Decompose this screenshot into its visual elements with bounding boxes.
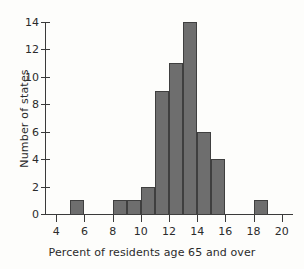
y-tick-label-2: 2 [19, 181, 39, 192]
x-tick-18 [254, 214, 255, 222]
y-tick-8 [41, 104, 50, 105]
x-tick-label-4: 4 [44, 226, 68, 237]
x-tick-label-6: 6 [72, 226, 96, 237]
histogram-bar [70, 200, 84, 215]
x-tick-16 [225, 214, 226, 222]
x-tick-label-18: 18 [242, 226, 266, 237]
y-tick-14 [41, 22, 50, 23]
y-tick-2 [41, 187, 50, 188]
histogram-bar [211, 159, 225, 215]
x-tick-20 [282, 214, 283, 222]
y-tick-label-0: 0 [19, 209, 39, 220]
x-tick-12 [169, 214, 170, 222]
y-tick-label-10: 10 [19, 71, 39, 82]
y-tick-0 [41, 214, 50, 215]
histogram-figure: Number of states 02468101214 46810121416… [0, 0, 304, 269]
y-tick-6 [41, 132, 50, 133]
x-tick-8 [113, 214, 114, 222]
x-tick-4 [56, 214, 57, 222]
y-tick-4 [41, 159, 50, 160]
y-tick-label-12: 12 [19, 44, 39, 55]
y-tick-label-6: 6 [19, 126, 39, 137]
x-tick-14 [197, 214, 198, 222]
histogram-bar [113, 200, 127, 215]
histogram-bar [127, 200, 141, 215]
y-tick-label-14: 14 [19, 17, 39, 28]
histogram-bar [141, 187, 155, 215]
x-tick-label-14: 14 [185, 226, 209, 237]
y-tick-label-4: 4 [19, 154, 39, 165]
histogram-bar [169, 63, 183, 215]
x-tick-label-12: 12 [157, 226, 181, 237]
histogram-bar [183, 22, 197, 215]
y-tick-12 [41, 49, 50, 50]
histogram-bar [155, 91, 169, 215]
histogram-bar [254, 200, 268, 215]
y-tick-label-8: 8 [19, 99, 39, 110]
x-tick-label-10: 10 [129, 226, 153, 237]
histogram-bar [197, 132, 211, 215]
x-tick-label-8: 8 [101, 226, 125, 237]
x-tick-label-20: 20 [270, 226, 294, 237]
y-tick-10 [41, 77, 50, 78]
x-tick-label-16: 16 [213, 226, 237, 237]
plot-area: 02468101214 468101214161820 [45, 22, 293, 220]
x-tick-10 [141, 214, 142, 222]
x-tick-6 [84, 214, 85, 222]
x-axis-title: Percent of residents age 65 and over [0, 246, 304, 259]
